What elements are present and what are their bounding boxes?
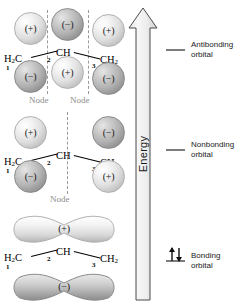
formula-number-2: 2 [47, 159, 51, 167]
label-line-2: orbital [191, 50, 233, 60]
formula-number-1: 1 [6, 64, 10, 72]
formula-number-2: 2 [47, 56, 51, 64]
energy-axis-arrow [127, 6, 159, 302]
energy-level-nonbonding: Nonbonding orbital [166, 140, 245, 170]
label-line-1: Nonbonding [191, 140, 234, 150]
lobe-sign: (−) [52, 19, 83, 30]
lobe-antibonding-top-c2: (−) [51, 8, 84, 41]
energy-level-label-bonding: Bonding orbital [191, 251, 220, 271]
energy-level-line-nonbonding [166, 149, 185, 151]
label-line-2: orbital [191, 261, 220, 271]
lobe-sign: (−) [15, 71, 46, 82]
energy-level-label-nonbonding: Nonbonding orbital [191, 140, 234, 160]
lobe-antibonding-bottom-c3: (−) [92, 62, 125, 95]
lobe-bonding-bottom-delocalized: (−) [10, 272, 118, 302]
lobe-sign: (+) [15, 127, 46, 138]
lobe-nonbonding-bottom-c1: (−) [14, 160, 47, 193]
lobe-sign: (−) [10, 281, 118, 292]
mo-panel-antibonding: (+) (−) (+) H2C CH CH2 1 2 3 (−) (+) (−) [0, 8, 140, 108]
lobe-sign: (+) [15, 23, 46, 34]
formula-atom-c2: CH [56, 150, 71, 161]
lobe-sign: (+) [93, 171, 124, 182]
formula-number-1: 1 [6, 167, 10, 175]
lobe-antibonding-bottom-c1: (−) [14, 60, 47, 93]
node-label-nonbonding-1: Node [50, 194, 70, 204]
bond-c2-c3 [74, 155, 100, 163]
lobe-sign: (+) [93, 25, 124, 36]
formula-number-1: 1 [6, 263, 10, 271]
bond-c2-c3 [74, 52, 100, 60]
lobe-sign: (−) [93, 73, 124, 84]
lobe-antibonding-bottom-c2: (+) [51, 56, 84, 89]
formula-atom-c2: CH [56, 246, 71, 257]
label-line-2: orbital [191, 150, 234, 160]
bond-c1-c2 [31, 249, 57, 257]
mo-panel-bonding: (+) H2C CH CH2 1 2 3 [0, 212, 140, 307]
node-label-antibonding-2: Node [70, 95, 90, 105]
mo-panel-nonbonding: (+) (−) H2C CH CH2 1 2 3 (−) (+) Node [0, 112, 140, 208]
bond-c2-c3 [74, 251, 100, 259]
lobe-nonbonding-top-c1: (+) [14, 116, 47, 149]
lobe-antibonding-top-c3: (+) [92, 14, 125, 47]
lobe-sign: (−) [15, 171, 46, 182]
lobe-nonbonding-top-c3: (−) [92, 116, 125, 149]
formula-number-2: 2 [47, 255, 51, 263]
energy-level-antibonding: Antibonding orbital [166, 40, 245, 70]
lobe-sign: (+) [10, 223, 118, 234]
node-label-antibonding-1: Node [29, 95, 49, 105]
energy-level-bonding: Bonding orbital [166, 246, 245, 276]
formula-number-3: 3 [92, 261, 96, 269]
formula-bonding: H2C CH CH2 1 2 3 [0, 246, 140, 272]
energy-level-line-antibonding [166, 49, 185, 51]
lobe-sign: (−) [93, 127, 124, 138]
electron-pair-bonding [166, 246, 185, 264]
label-line-1: Antibonding [191, 40, 233, 50]
lobe-sign: (+) [52, 67, 83, 78]
lobe-bonding-top-delocalized: (+) [10, 214, 118, 244]
label-line-1: Bonding [191, 251, 220, 261]
bond-c1-c2 [31, 50, 57, 58]
formula-atom-c3: CH2 [100, 253, 118, 265]
energy-level-label-antibonding: Antibonding orbital [191, 40, 233, 60]
allyl-mo-diagram: (+) (−) (+) H2C CH CH2 1 2 3 (−) (+) (−) [0, 0, 245, 307]
lobe-antibonding-top-c1: (+) [14, 12, 47, 45]
lobe-nonbonding-bottom-c3: (+) [92, 160, 125, 193]
